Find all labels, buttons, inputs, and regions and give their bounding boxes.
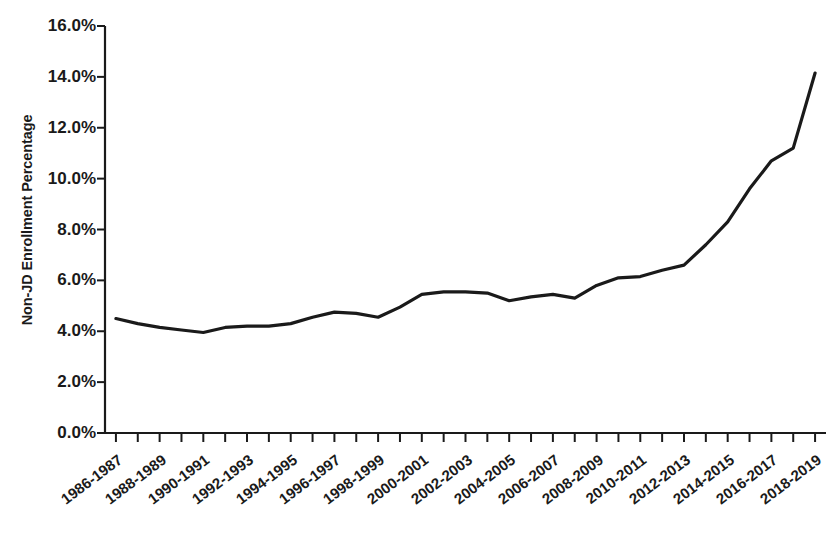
- x-axis-tick-labels: 1986-19871988-19891990-19911992-19931994…: [0, 0, 834, 540]
- chart-figure: Non-JD Enrollment Percentage 16.0%14.0%1…: [0, 0, 834, 540]
